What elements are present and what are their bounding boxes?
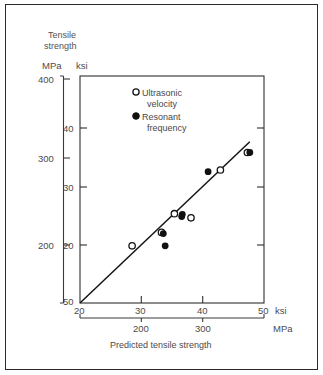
legend-marker-open-circle	[133, 89, 139, 95]
data-point-filled-circle	[179, 211, 186, 218]
data-point-open-circle	[171, 211, 177, 217]
data-point-open-circle	[129, 243, 135, 249]
reference-line	[80, 142, 250, 303]
data-point-filled-circle	[246, 149, 253, 156]
plot-frame	[80, 76, 264, 303]
data-point-filled-circle	[162, 242, 169, 249]
plot-area	[0, 0, 323, 375]
y-axis-mpa-spine	[60, 76, 64, 303]
data-point-open-circle	[217, 167, 223, 173]
data-point-open-circle	[188, 215, 194, 221]
legend-marker-filled-circle	[133, 113, 140, 120]
data-point-filled-circle	[205, 168, 212, 175]
data-point-filled-circle	[160, 230, 167, 237]
x-axis-mpa-spine	[80, 314, 264, 318]
figure-container: Tensile strength MPa ksi 400 300 200 40 …	[0, 0, 323, 375]
